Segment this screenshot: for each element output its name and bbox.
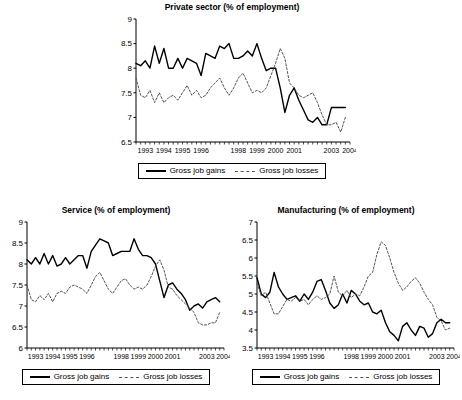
legend-entry-gains: Gross job gains <box>146 166 226 176</box>
solid-line-icon <box>30 376 50 378</box>
svg-text:1999: 1999 <box>361 353 377 360</box>
svg-text:1999: 1999 <box>249 147 265 154</box>
svg-text:2000: 2000 <box>378 353 394 360</box>
svg-text:1995: 1995 <box>62 353 78 360</box>
dashed-line-icon <box>235 171 255 172</box>
legend-holder-service: Gross job gains Gross job losses <box>2 364 230 385</box>
legend-label-gains: Gross job gains <box>54 372 110 382</box>
legend-label-gains: Gross job gains <box>284 372 340 382</box>
svg-text:6: 6 <box>249 254 254 263</box>
svg-text:1996: 1996 <box>193 147 209 154</box>
svg-text:1993: 1993 <box>138 147 154 154</box>
svg-text:1993: 1993 <box>258 353 274 360</box>
svg-text:4.5: 4.5 <box>242 308 254 317</box>
svg-text:9: 9 <box>128 15 133 24</box>
legend-entry-losses: Gross job losses <box>119 372 202 382</box>
series-line-dashed <box>27 260 220 325</box>
chart-legend-manufacturing: Gross job gains Gross job losses <box>252 369 441 385</box>
svg-text:1995: 1995 <box>175 147 191 154</box>
svg-text:6.5: 6.5 <box>12 323 24 332</box>
svg-text:7.5: 7.5 <box>12 281 24 290</box>
chart-panel-private: Private sector (% of employment) 6.577.5… <box>108 2 356 192</box>
legend-label-losses: Gross job losses <box>143 372 202 382</box>
svg-text:2003: 2003 <box>199 353 215 360</box>
svg-text:6.5: 6.5 <box>121 138 133 147</box>
plot-svg-private: 6.577.588.591993199419951996199819992000… <box>108 13 356 158</box>
legend-label-gains: Gross job gains <box>170 166 226 176</box>
svg-text:2000: 2000 <box>268 147 284 154</box>
svg-text:1999: 1999 <box>131 353 147 360</box>
svg-text:7: 7 <box>249 218 254 227</box>
svg-text:2003: 2003 <box>324 147 340 154</box>
svg-text:1994: 1994 <box>156 147 172 154</box>
svg-text:8.5: 8.5 <box>12 239 24 248</box>
svg-text:5: 5 <box>249 290 254 299</box>
svg-text:1998: 1998 <box>113 353 129 360</box>
svg-text:1998: 1998 <box>343 353 359 360</box>
plot-area-private: 6.577.588.591993199419951996199819992000… <box>108 13 356 158</box>
svg-text:1996: 1996 <box>309 353 325 360</box>
plot-svg-service: 66.577.588.59199319941995199619981999200… <box>2 216 230 364</box>
svg-text:3.5: 3.5 <box>242 344 254 353</box>
svg-text:2001: 2001 <box>395 353 411 360</box>
svg-text:2001: 2001 <box>286 147 302 154</box>
svg-text:1994: 1994 <box>45 353 61 360</box>
chart-title-service: Service (% of employment) <box>2 205 230 216</box>
svg-text:4: 4 <box>249 326 254 335</box>
legend-label-losses: Gross job losses <box>259 166 318 176</box>
chart-legend-service: Gross job gains Gross job losses <box>22 369 211 385</box>
svg-text:1996: 1996 <box>79 353 95 360</box>
svg-text:6: 6 <box>19 344 24 353</box>
series-line-solid <box>136 44 345 125</box>
legend-holder-private: Gross job gains Gross job losses <box>108 158 356 179</box>
svg-text:2001: 2001 <box>165 353 181 360</box>
solid-line-icon <box>146 170 166 172</box>
svg-text:2000: 2000 <box>148 353 164 360</box>
svg-text:9: 9 <box>19 218 24 227</box>
series-line-dashed <box>257 242 450 330</box>
series-line-solid <box>27 239 220 310</box>
svg-text:7.5: 7.5 <box>121 89 133 98</box>
chart-panel-service: Service (% of employment) 66.577.588.591… <box>2 205 230 398</box>
series-line-solid <box>257 272 450 340</box>
chart-title-private: Private sector (% of employment) <box>108 2 356 13</box>
plot-svg-manufacturing: 3.544.555.566.57199319941995199619981999… <box>232 216 460 364</box>
legend-entry-losses: Gross job losses <box>235 166 318 176</box>
svg-text:7: 7 <box>128 113 133 122</box>
svg-text:7: 7 <box>19 302 24 311</box>
dashed-line-icon <box>119 377 139 378</box>
svg-text:2004: 2004 <box>342 147 356 154</box>
svg-text:1994: 1994 <box>275 353 291 360</box>
svg-text:8: 8 <box>128 64 133 73</box>
legend-holder-manufacturing: Gross job gains Gross job losses <box>232 364 460 385</box>
legend-entry-gains: Gross job gains <box>30 372 110 382</box>
svg-text:1993: 1993 <box>28 353 44 360</box>
chart-title-manufacturing: Manufacturing (% of employment) <box>232 205 460 216</box>
svg-text:8: 8 <box>19 260 24 269</box>
solid-line-icon <box>260 376 280 378</box>
svg-text:2003: 2003 <box>429 353 445 360</box>
chart-panel-manufacturing: Manufacturing (% of employment) 3.544.55… <box>232 205 460 398</box>
svg-text:1998: 1998 <box>231 147 247 154</box>
svg-text:5.5: 5.5 <box>242 272 254 281</box>
dashed-line-icon <box>349 377 369 378</box>
svg-text:6.5: 6.5 <box>242 236 254 245</box>
legend-entry-gains: Gross job gains <box>260 372 340 382</box>
chart-legend-private: Gross job gains Gross job losses <box>138 163 327 179</box>
svg-text:1995: 1995 <box>292 353 308 360</box>
legend-label-losses: Gross job losses <box>373 372 432 382</box>
svg-text:2004: 2004 <box>446 353 460 360</box>
svg-text:8.5: 8.5 <box>121 39 133 48</box>
plot-area-service: 66.577.588.59199319941995199619981999200… <box>2 216 230 364</box>
legend-entry-losses: Gross job losses <box>349 372 432 382</box>
plot-area-manufacturing: 3.544.555.566.57199319941995199619981999… <box>232 216 460 364</box>
svg-text:2004: 2004 <box>216 353 230 360</box>
